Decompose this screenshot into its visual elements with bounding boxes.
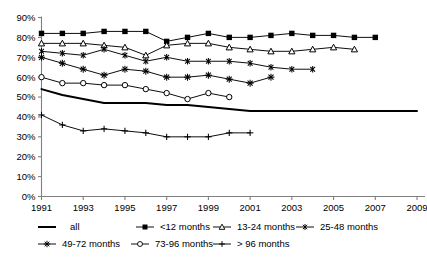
y-axis-tick-label: 60% [16, 72, 36, 83]
data-point-marker-plus [59, 122, 65, 128]
x-axis-tick-label: 2007 [365, 202, 386, 213]
data-point-marker-star [226, 76, 233, 83]
data-point-marker-filled-square [81, 31, 86, 36]
data-point-marker-star [101, 72, 108, 79]
data-point-marker-open-circle [81, 80, 86, 85]
data-point-marker-open-circle [164, 90, 169, 95]
x-axis-tick-label: 1995 [114, 202, 135, 213]
line-chart: 0%10%20%30%40%50%60%70%80%90%19911993199… [0, 0, 427, 262]
chart-axes: 0%10%20%30%40%50%60%70%80%90%19911993199… [16, 12, 427, 213]
legend-item[interactable]: 73-96 months [131, 238, 213, 249]
y-axis-tick-label: 70% [16, 52, 36, 63]
data-point-marker-filled-square [310, 33, 315, 38]
data-point-marker-filled-square [331, 33, 336, 38]
data-point-marker-plus [80, 128, 86, 134]
x-axis-tick-label: 2009 [406, 202, 427, 213]
data-point-marker-filled-square [143, 29, 148, 34]
y-axis-tick-label: 30% [16, 131, 36, 142]
data-point-marker-star [163, 74, 170, 81]
data-point-marker-plus [122, 128, 128, 134]
data-point-marker-star [247, 80, 254, 87]
data-point-marker-star [205, 72, 212, 79]
y-axis-tick-label: 20% [16, 151, 36, 162]
data-point-marker-filled-square [143, 225, 148, 230]
legend-item[interactable]: 49-72 months [38, 238, 120, 249]
data-point-marker-filled-square [60, 31, 65, 36]
x-axis-tick-label: 2005 [323, 202, 344, 213]
legend-label: 49-72 months [62, 238, 120, 249]
data-point-marker-plus [226, 130, 232, 136]
y-axis-tick-label: 90% [16, 12, 36, 23]
y-axis-tick-label: 10% [16, 171, 36, 182]
data-point-marker-open-circle [143, 86, 148, 91]
series-73-96-months [39, 74, 232, 101]
data-point-marker-filled-square [39, 31, 44, 36]
legend-item[interactable]: > 96 months [213, 238, 290, 249]
x-axis-tick-label: 2001 [240, 202, 261, 213]
data-point-marker-open-triangle [330, 44, 336, 50]
data-point-marker-plus [163, 134, 169, 140]
legend-label: 25-48 months [320, 221, 378, 232]
data-point-marker-open-circle [39, 74, 44, 79]
x-axis-tick-label: 1993 [73, 202, 94, 213]
data-point-marker-open-circle [206, 90, 211, 95]
data-point-marker-plus [101, 126, 107, 132]
data-point-marker-star [44, 241, 50, 247]
data-point-marker-open-circle [122, 82, 127, 87]
data-point-marker-star [59, 60, 66, 67]
data-point-marker-filled-square [289, 31, 294, 36]
data-point-marker-plus [143, 130, 149, 136]
data-point-marker-filled-square [352, 35, 357, 40]
data-point-marker-plus [247, 130, 253, 136]
data-point-marker-open-circle [60, 80, 65, 85]
series-line [42, 57, 271, 83]
data-point-marker-star [267, 74, 274, 81]
legend-label: 13-24 months [237, 221, 295, 232]
chart-series-group [38, 29, 417, 140]
y-axis-tick-label: 80% [16, 32, 36, 43]
y-axis-tick-label: 40% [16, 111, 36, 122]
data-point-marker-filled-square [247, 35, 252, 40]
data-point-marker-open-circle [101, 82, 106, 87]
data-point-marker-filled-square [101, 29, 106, 34]
chart-legend: all<12 months13-24 months25-48 months49-… [38, 221, 378, 249]
data-point-marker-plus [219, 241, 225, 247]
data-point-marker-plus [184, 134, 190, 140]
x-axis-tick-label: 2003 [281, 202, 302, 213]
legend-item[interactable]: all [38, 221, 80, 232]
data-point-marker-filled-square [122, 29, 127, 34]
series-49-72-months [38, 54, 274, 87]
x-axis-tick-label: 1997 [156, 202, 177, 213]
legend-label: > 96 months [237, 238, 290, 249]
y-axis-tick-label: 50% [16, 91, 36, 102]
legend-label: <12 months [160, 221, 210, 232]
data-point-marker-star [121, 66, 128, 73]
series-13-24-months [38, 40, 357, 58]
series-96-months [38, 112, 253, 140]
legend-label: all [70, 221, 80, 232]
data-point-marker-open-circle [185, 96, 190, 101]
legend-item[interactable]: 13-24 months [213, 221, 295, 232]
data-point-marker-open-triangle [143, 52, 149, 58]
x-axis-tick-label: 1991 [31, 202, 52, 213]
legend-label: 73-96 months [155, 238, 213, 249]
data-point-marker-plus [205, 134, 211, 140]
legend-item[interactable]: 25-48 months [296, 221, 378, 232]
data-point-marker-star [142, 68, 149, 75]
legend-item[interactable]: <12 months [136, 221, 210, 232]
data-point-marker-star [184, 74, 191, 81]
data-point-marker-filled-square [227, 35, 232, 40]
data-point-marker-open-circle [227, 94, 232, 99]
y-axis-tick-label: 0% [22, 191, 36, 202]
data-point-marker-filled-square [206, 31, 211, 36]
chart-canvas: 0%10%20%30%40%50%60%70%80%90%19911993199… [0, 0, 427, 262]
x-axis-tick-label: 1999 [198, 202, 219, 213]
data-point-marker-filled-square [373, 35, 378, 40]
data-point-marker-star [38, 54, 45, 61]
data-point-marker-star [80, 66, 87, 73]
data-point-marker-filled-square [268, 33, 273, 38]
data-point-marker-open-circle [138, 242, 143, 247]
